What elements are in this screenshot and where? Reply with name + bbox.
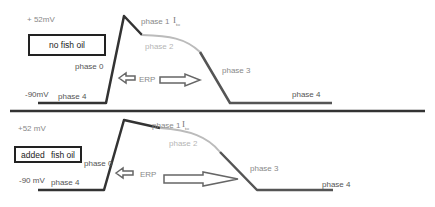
top-erp-label: ERP	[139, 76, 155, 84]
top-voltage-max: + 52mV	[27, 16, 55, 24]
top-voltage-rest: -90mV	[25, 91, 49, 99]
bottom-phase1-label: phase 1	[152, 122, 180, 130]
action-potential-diagram	[0, 0, 435, 207]
bottom-ito-label: Ito	[182, 120, 189, 131]
bottom-voltage-max: +52 mV	[18, 125, 46, 133]
bottom-condition-label-1: added	[21, 150, 45, 160]
bottom-erp-label: ERP	[140, 171, 156, 179]
erp-right-arrow-icon	[160, 74, 200, 86]
bottom-erp-arrows	[116, 168, 238, 186]
top-phase2-label: phase 2	[145, 43, 173, 51]
top-action-potential-trace	[38, 16, 332, 103]
top-phase0-label: phase 0	[75, 63, 103, 71]
erp-left-arrow-icon	[119, 73, 135, 83]
top-condition-label: no fish oil	[49, 40, 85, 50]
erp-left-arrow-icon	[116, 168, 133, 178]
erp-right-arrow-icon	[164, 172, 238, 186]
top-ito-label: Ito	[173, 16, 180, 27]
bottom-phase4-right-label: phase 4	[322, 181, 350, 189]
bottom-phase4-left-label: phase 4	[51, 179, 79, 187]
top-phase4-left-label: phase 4	[58, 93, 86, 101]
bottom-condition-box: added fish oil	[14, 146, 82, 163]
bottom-condition-label-2: fish oil	[51, 150, 75, 160]
top-erp-arrows	[119, 73, 200, 86]
bottom-phase3-label: phase 3	[250, 165, 278, 173]
bottom-voltage-rest: -90 mV	[19, 177, 45, 185]
bottom-phase0-label: phase 0	[84, 160, 112, 168]
top-condition-box: no fish oil	[28, 34, 106, 56]
top-phase4-right-label: phase 4	[292, 91, 320, 99]
top-phase1-label: phase 1	[141, 18, 169, 26]
bottom-phase2-label: phase 2	[169, 140, 197, 148]
top-phase3-label: phase 3	[222, 67, 250, 75]
